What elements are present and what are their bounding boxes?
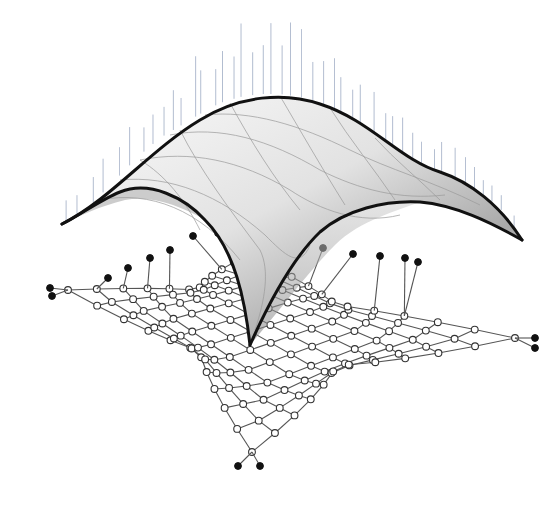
free-node (307, 396, 314, 403)
free-node (313, 380, 320, 387)
support-node (47, 285, 54, 292)
free-node (234, 426, 241, 433)
support-edge (374, 256, 380, 311)
free-node (200, 286, 207, 293)
support-node (350, 251, 357, 258)
free-node (170, 291, 177, 298)
diagram-svg (0, 0, 560, 507)
shell-surface (62, 96, 522, 345)
free-node (210, 292, 217, 299)
free-node (288, 332, 295, 339)
free-node (211, 282, 218, 289)
free-node (211, 356, 218, 363)
free-node (321, 368, 328, 375)
free-node (209, 272, 216, 279)
free-node (130, 312, 137, 319)
free-node (177, 300, 184, 307)
network-edge (475, 338, 515, 346)
free-node (177, 332, 184, 339)
free-node (276, 405, 283, 412)
network-edge (252, 433, 275, 452)
free-node (188, 310, 195, 317)
diagram-canvas (0, 0, 560, 507)
free-node (260, 396, 267, 403)
network-edge (237, 429, 252, 452)
free-node (472, 343, 479, 350)
free-node (362, 319, 369, 326)
free-node (272, 430, 279, 437)
free-node (150, 293, 157, 300)
free-node (202, 356, 209, 363)
network-edge (124, 319, 148, 331)
free-node (386, 328, 393, 335)
free-node (301, 377, 308, 384)
free-node (170, 315, 177, 322)
free-node (201, 278, 208, 285)
support-node (125, 265, 132, 272)
network-edge (475, 330, 515, 338)
network-edge (374, 311, 404, 316)
support-node (402, 255, 409, 262)
free-node (208, 322, 215, 329)
free-node (266, 359, 273, 366)
support-node (532, 345, 539, 352)
free-node (225, 300, 232, 307)
support-node (190, 233, 197, 240)
support-edge (404, 258, 405, 316)
free-node (434, 319, 441, 326)
free-node (94, 302, 101, 309)
free-node (300, 295, 307, 302)
free-node (226, 385, 233, 392)
network-edge (97, 288, 124, 289)
support-node (235, 463, 242, 470)
free-node (207, 305, 214, 312)
network-edge (438, 346, 475, 353)
network-edge (375, 358, 405, 362)
free-node (320, 381, 327, 388)
free-node (351, 328, 358, 335)
free-node (187, 289, 194, 296)
network-edge (398, 323, 426, 331)
free-node (423, 343, 430, 350)
support-node (415, 259, 422, 266)
free-node (281, 387, 288, 394)
network-edge (399, 347, 426, 354)
free-node (309, 343, 316, 350)
free-node (288, 351, 295, 358)
free-node (330, 335, 337, 342)
free-node (203, 369, 210, 376)
free-node (121, 316, 128, 323)
free-node (211, 386, 218, 393)
network-edge (68, 289, 97, 290)
free-node (351, 346, 358, 353)
free-node (189, 328, 196, 335)
free-node (130, 296, 137, 303)
support-node (167, 247, 174, 254)
free-node (287, 315, 294, 322)
free-node (194, 296, 201, 303)
free-node (264, 379, 271, 386)
free-node (295, 392, 302, 399)
free-node (307, 309, 314, 316)
free-node (245, 366, 252, 373)
free-node (159, 320, 166, 327)
free-node (402, 355, 409, 362)
network-edge (405, 353, 438, 358)
free-node (221, 405, 228, 412)
free-node (345, 361, 352, 368)
support-node (49, 293, 56, 300)
free-node (395, 320, 402, 327)
free-node (311, 293, 318, 300)
free-node (395, 350, 402, 357)
free-node (227, 317, 234, 324)
support-node (105, 275, 112, 282)
surface-body (62, 97, 522, 345)
free-node (386, 344, 393, 351)
support-edge (148, 258, 150, 288)
support-node (377, 253, 384, 260)
free-node (320, 303, 327, 310)
free-node (151, 324, 158, 331)
free-node (471, 326, 478, 333)
free-node (329, 318, 336, 325)
network-edge (404, 316, 437, 322)
